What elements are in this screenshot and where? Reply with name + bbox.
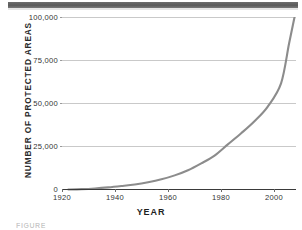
x-tick-mark	[221, 189, 222, 192]
figure-caption-partial: FIGURE	[16, 222, 46, 229]
x-axis-title: YEAR	[0, 207, 302, 217]
x-tick-label: 1920	[40, 193, 84, 202]
y-tick-label: 25,000	[8, 142, 58, 151]
y-tick-label: 75,000	[8, 56, 58, 65]
data-series-line	[62, 17, 298, 191]
x-tick-mark	[168, 189, 169, 192]
x-tick-mark	[115, 189, 116, 192]
figure-container: NUMBER OF PROTECTED AREAS 100,000 75,000…	[0, 0, 302, 230]
y-tick-label: 50,000	[8, 99, 58, 108]
x-tick-label: 1980	[199, 193, 243, 202]
x-axis-line	[62, 189, 296, 190]
x-tick-label: 1960	[146, 193, 190, 202]
x-tick-mark	[62, 189, 63, 192]
x-tick-label: 1940	[93, 193, 137, 202]
top-rule-shadow	[8, 8, 298, 10]
x-tick-mark	[274, 189, 275, 192]
x-tick-label: 2000	[252, 193, 296, 202]
y-axis-ticks: 100,000 75,000 50,000 25,000 0	[4, 17, 58, 189]
y-tick-label: 100,000	[8, 13, 58, 22]
